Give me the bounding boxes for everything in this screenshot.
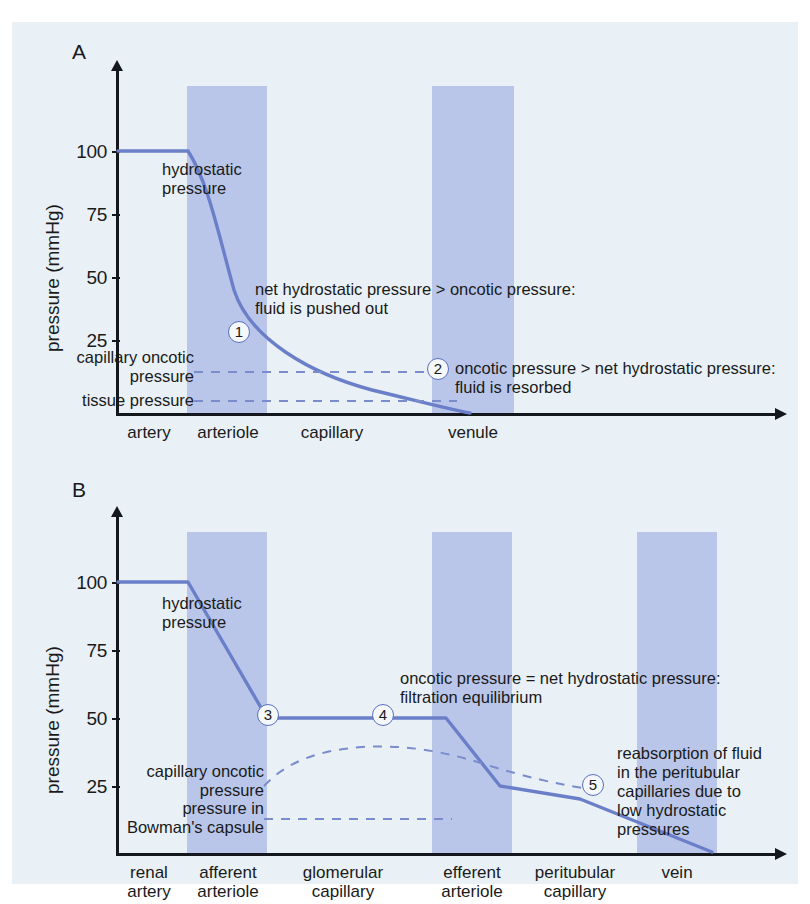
label-tissue-pressure: tissue pressure: [42, 391, 194, 410]
annotation-note-2: oncotic pressure > net hydrostatic press…: [455, 359, 795, 397]
x-tick-label-capillary: capillary: [287, 423, 377, 442]
panel-a: A 100 75 50 25 pressure (mmHg) hydrostat…: [12, 22, 798, 442]
annotation-note-5: reabsorption of fluid in the peritubular…: [617, 744, 797, 839]
x-tick-label-efferent-arteriole: efferent arteriole: [428, 863, 516, 901]
x-tick-label-vein: vein: [638, 863, 716, 882]
x-tick-label-arteriole: arteriole: [188, 423, 268, 442]
figure-container: A 100 75 50 25 pressure (mmHg) hydrostat…: [12, 22, 798, 884]
x-tick-label-renal-artery: renal artery: [112, 863, 186, 901]
annotation-marker-2[interactable]: 2: [427, 358, 449, 380]
x-tick-label-afferent-arteriole: afferent arteriole: [186, 863, 270, 901]
label-capillary-oncotic-pressure: capillary oncotic pressure: [42, 348, 194, 386]
annotation-note-1: net hydrostatic pressure > oncotic press…: [255, 280, 685, 318]
annotation-marker-3[interactable]: 3: [257, 704, 279, 726]
x-tick-label-venule: venule: [430, 423, 516, 442]
annotation-marker-1[interactable]: 1: [228, 321, 250, 343]
label-hydrostatic-pressure: hydrostatic pressure: [162, 160, 332, 198]
annotation-marker-4[interactable]: 4: [372, 704, 394, 726]
x-tick-label-peritubular-capillary: peritubular capillary: [520, 863, 630, 901]
annotation-marker-5[interactable]: 5: [582, 774, 604, 796]
annotation-note-4: oncotic pressure = net hydrostatic press…: [400, 669, 800, 707]
label-bowmans-capsule-pressure: pressure in Bowman's capsule: [42, 799, 264, 837]
panel-b: B 100 75 50 25 pressure (mmHg) hydrostat…: [12, 454, 798, 884]
label-capillary-oncotic-pressure: capillary oncotic pressure: [42, 762, 264, 800]
label-hydrostatic-pressure: hydrostatic pressure: [162, 594, 332, 632]
capillary-oncotic-pressure-curve: [264, 746, 582, 788]
x-tick-label-glomerular-capillary: glomerular capillary: [290, 863, 396, 901]
x-tick-label-artery: artery: [114, 423, 184, 442]
